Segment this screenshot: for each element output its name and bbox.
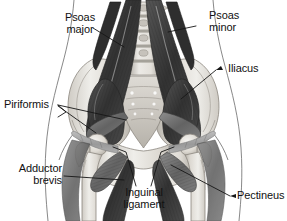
label-pectineus: Pectineus	[237, 190, 287, 202]
label-inguinal-ligament: Inguinal ligament	[108, 187, 180, 210]
label-adductor-brevis: Adductor brevis	[2, 163, 62, 186]
label-piriformis: Piriformis	[4, 99, 62, 111]
label-psoas-minor: Psoas minor	[209, 10, 271, 33]
label-psoas-major: Psoas major	[54, 12, 106, 35]
anatomy-figure: Psoas major Psoas minor Iliacus Piriform…	[0, 0, 287, 221]
sacrum	[122, 76, 165, 148]
label-iliacus: Iliacus	[228, 63, 286, 75]
